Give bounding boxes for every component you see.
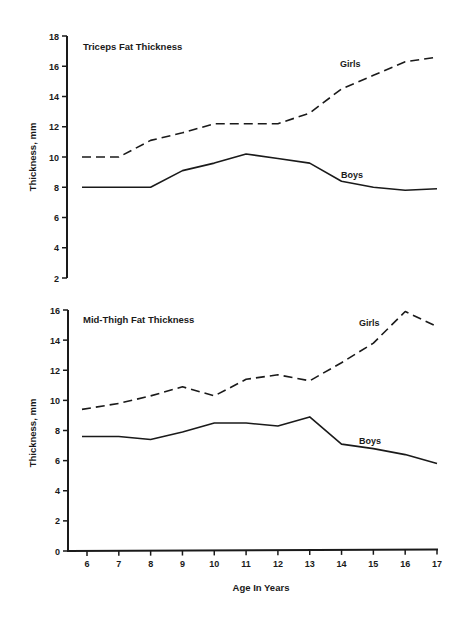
mid-thigh-chart-panel: 024681012141667891011121314151617 Mid-Th…: [27, 306, 442, 594]
series-line-girls: [82, 57, 437, 157]
triceps-chart-title: Triceps Fat Thickness: [83, 41, 182, 52]
x-tick-label: 12: [273, 559, 283, 569]
y-tick-label: 12: [50, 366, 60, 376]
mid-thigh-y-axis-title: Thickness, mm: [27, 399, 38, 468]
x-tick-label: 11: [241, 559, 251, 569]
x-tick-label: 17: [432, 559, 442, 569]
x-tick-label: 15: [368, 559, 378, 569]
y-tick-label: 2: [55, 516, 60, 526]
x-axis-line: [68, 550, 438, 552]
x-axis-title: Age In Years: [233, 582, 290, 593]
y-tick-label: 6: [54, 213, 59, 223]
x-tick-label: 14: [337, 559, 347, 569]
y-tick-label: 8: [55, 426, 60, 436]
y-tick-label: 16: [50, 306, 60, 316]
y-tick-label: 4: [55, 486, 60, 496]
y-tick-label: 18: [49, 32, 59, 42]
y-tick-label: 6: [55, 456, 60, 466]
x-tick-label: 9: [180, 559, 185, 569]
y-tick-label: 16: [49, 62, 59, 72]
y-tick-label: 10: [50, 396, 60, 406]
mid-thigh-series-lines: [82, 312, 437, 464]
triceps-girls-label: Girls: [340, 59, 361, 69]
x-tick-label: 10: [209, 559, 219, 569]
x-tick-label: 7: [116, 559, 121, 569]
triceps-series-lines: [82, 57, 437, 190]
triceps-chart-panel: 24681012141618 Triceps Fat Thickness Thi…: [27, 32, 437, 284]
mid-thigh-girls-label: Girls: [359, 318, 380, 328]
x-tick-label: 13: [305, 559, 315, 569]
y-tick-label: 14: [50, 336, 60, 346]
x-tick-label: 8: [148, 559, 153, 569]
triceps-y-axis-title: Thickness, mm: [27, 123, 38, 192]
triceps-boys-label: Boys: [341, 170, 363, 180]
y-tick-label: 2: [54, 274, 59, 284]
triceps-y-axis: 24681012141618: [49, 32, 67, 284]
x-tick-label: 6: [84, 559, 89, 569]
y-tick-label: 4: [54, 243, 59, 253]
x-tick-label: 16: [400, 559, 410, 569]
y-tick-label: 8: [54, 183, 59, 193]
series-line-girls: [82, 312, 437, 410]
series-line-boys: [82, 417, 437, 464]
mid-thigh-boys-label: Boys: [359, 436, 381, 446]
y-tick-label: 14: [49, 92, 59, 102]
y-tick-label: 10: [49, 153, 59, 163]
y-tick-label: 12: [49, 122, 59, 132]
y-tick-label: 0: [55, 547, 60, 557]
mid-thigh-chart-title: Mid-Thigh Fat Thickness: [83, 314, 194, 325]
series-line-boys: [82, 154, 437, 190]
fat-thickness-figure: 24681012141618 Triceps Fat Thickness Thi…: [0, 0, 465, 625]
